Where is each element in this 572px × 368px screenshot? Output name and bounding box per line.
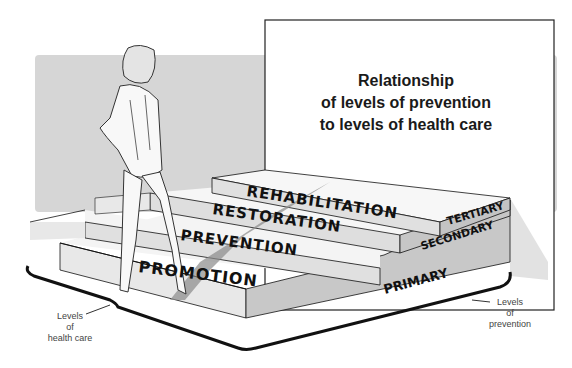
health-care-label-1: Levels (57, 311, 84, 321)
health-care-label-3: health care (48, 333, 93, 343)
health-care-pointer (86, 305, 110, 314)
health-care-label-2: of (66, 322, 74, 332)
title-line-1: Relationship (358, 72, 454, 89)
prevention-label-2: of (506, 308, 514, 318)
prevention-health-care-diagram: Relationship of levels of prevention to … (0, 0, 572, 368)
prevention-label-3: prevention (489, 319, 531, 329)
title-line-3: to levels of health care (320, 116, 493, 133)
prevention-label-1: Levels (497, 297, 524, 307)
title-line-2: of levels of prevention (321, 94, 491, 111)
